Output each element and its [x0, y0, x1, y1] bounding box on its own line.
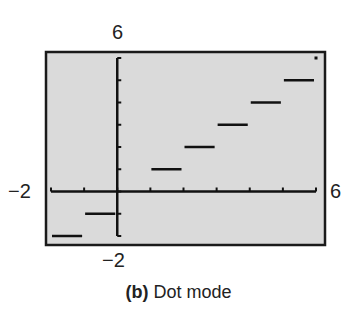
caption-tag: (b) [125, 282, 148, 302]
ymin-label: −2 [102, 250, 125, 270]
figure-caption: (b) Dot mode [0, 282, 357, 303]
caption-text: Dot mode [153, 282, 231, 302]
data-point [315, 57, 318, 60]
ymax-label: 6 [112, 22, 123, 42]
xmin-label: −2 [8, 181, 31, 201]
screen-frame [46, 52, 325, 245]
xmax-label: 6 [330, 181, 341, 201]
calculator-screen-chart [0, 0, 357, 313]
